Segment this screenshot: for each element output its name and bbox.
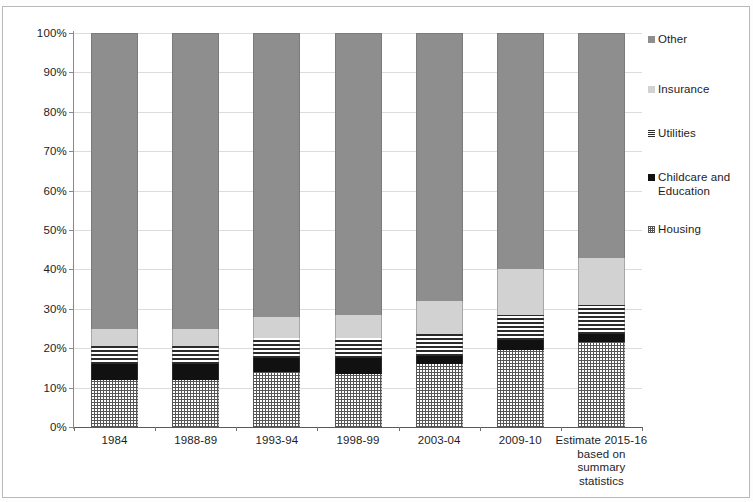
bar-segment-utilities[interactable] — [91, 346, 138, 364]
x-axis-tick-mark — [399, 427, 400, 431]
bar-segment-housing[interactable] — [497, 350, 544, 427]
y-axis-tick-mark — [69, 269, 74, 270]
legend-label: Utilities — [658, 127, 696, 141]
bar-segment-other[interactable] — [578, 33, 625, 258]
bar-segment-utilities[interactable] — [335, 338, 382, 358]
bar-segment-other[interactable] — [335, 33, 382, 315]
legend-item[interactable]: Childcare and Education — [648, 171, 750, 198]
bar-segment-insurance[interactable] — [497, 269, 544, 314]
bar-segment-childcare-and-education[interactable] — [335, 358, 382, 374]
stacked-bar[interactable] — [416, 33, 463, 427]
bar-segment-housing[interactable] — [91, 380, 138, 427]
bar-segment-childcare-and-education[interactable] — [578, 334, 625, 342]
y-axis-tick-label: 60% — [43, 185, 67, 197]
legend-swatch-icon — [648, 174, 655, 181]
bar-segment-insurance[interactable] — [335, 315, 382, 339]
y-axis-tick-label: 80% — [43, 106, 67, 118]
stacked-bar[interactable] — [578, 33, 625, 427]
y-axis-labels: 0%10%20%30%40%50%60%70%80%90%100% — [0, 33, 67, 427]
bar-segment-housing[interactable] — [416, 364, 463, 427]
bar-segment-utilities[interactable] — [253, 338, 300, 358]
bar-segment-childcare-and-education[interactable] — [416, 356, 463, 364]
y-axis-tick-label: 50% — [43, 224, 67, 236]
legend-item[interactable]: Housing — [648, 223, 750, 237]
bar-segment-utilities[interactable] — [172, 346, 219, 364]
bar-segment-housing[interactable] — [172, 380, 219, 427]
bar-segment-childcare-and-education[interactable] — [497, 340, 544, 350]
bar-segment-housing[interactable] — [578, 342, 625, 427]
y-axis-tick-label: 90% — [43, 66, 67, 78]
x-axis-tick-mark — [74, 427, 75, 431]
y-axis-tick-mark — [69, 191, 74, 192]
bar-segment-other[interactable] — [253, 33, 300, 317]
stacked-bar[interactable] — [172, 33, 219, 427]
x-axis-tick-mark — [561, 427, 562, 431]
legend-item[interactable]: Utilities — [648, 127, 750, 141]
bar-segment-other[interactable] — [172, 33, 219, 329]
x-axis-tick-mark — [642, 427, 643, 431]
y-axis-tick-label: 20% — [43, 342, 67, 354]
stacked-bar[interactable] — [335, 33, 382, 427]
bar-segment-insurance[interactable] — [91, 329, 138, 347]
y-axis-tick-mark — [69, 348, 74, 349]
x-axis-tick-label: Estimate 2015-16 based on summary statis… — [553, 434, 649, 488]
legend-item[interactable]: Other — [648, 33, 750, 47]
bar-segment-housing[interactable] — [253, 372, 300, 427]
chart-container: 0%10%20%30%40%50%60%70%80%90%100% 198419… — [0, 0, 753, 502]
y-axis-tick-label: 70% — [43, 145, 67, 157]
bar-segment-childcare-and-education[interactable] — [91, 364, 138, 380]
bar-segment-other[interactable] — [416, 33, 463, 301]
bar-segment-housing[interactable] — [335, 374, 382, 427]
y-axis-tick-label: 30% — [43, 303, 67, 315]
legend-label: Housing — [658, 223, 701, 237]
stacked-bar[interactable] — [253, 33, 300, 427]
bar-segment-childcare-and-education[interactable] — [253, 358, 300, 372]
x-axis-line — [73, 427, 643, 428]
y-axis-tick-label: 100% — [37, 27, 67, 39]
y-axis-tick-mark — [69, 230, 74, 231]
bar-segment-utilities[interactable] — [416, 334, 463, 356]
stacked-bar[interactable] — [497, 33, 544, 427]
bar-segment-insurance[interactable] — [578, 258, 625, 305]
y-axis-tick-mark — [69, 309, 74, 310]
y-axis-tick-mark — [69, 151, 74, 152]
y-axis-tick-mark — [69, 112, 74, 113]
stacked-bar[interactable] — [91, 33, 138, 427]
x-axis-tick-mark — [236, 427, 237, 431]
legend-label: Insurance — [658, 83, 709, 97]
y-axis-tick-label: 40% — [43, 263, 67, 275]
legend-swatch-icon — [648, 86, 655, 93]
legend-item[interactable]: Insurance — [648, 83, 750, 97]
bar-segment-insurance[interactable] — [416, 301, 463, 334]
y-axis-tick-mark — [69, 388, 74, 389]
bar-segment-utilities[interactable] — [497, 315, 544, 341]
legend-swatch-icon — [648, 36, 655, 43]
x-axis-tick-mark — [480, 427, 481, 431]
y-axis-tick-label: 10% — [43, 382, 67, 394]
x-axis-tick-mark — [317, 427, 318, 431]
bar-segment-other[interactable] — [91, 33, 138, 329]
y-axis-tick-mark — [69, 33, 74, 34]
bar-segment-childcare-and-education[interactable] — [172, 364, 219, 380]
bar-segment-utilities[interactable] — [578, 305, 625, 335]
x-axis-tick-mark — [155, 427, 156, 431]
legend-swatch-icon — [648, 226, 655, 233]
legend-label: Other — [658, 33, 687, 47]
legend-label: Childcare and Education — [658, 171, 750, 198]
bar-segment-other[interactable] — [497, 33, 544, 269]
plot-area — [74, 33, 642, 427]
bar-segment-insurance[interactable] — [172, 329, 219, 347]
y-axis-tick-mark — [69, 72, 74, 73]
y-axis-tick-label: 0% — [50, 421, 67, 433]
legend-swatch-icon — [648, 130, 655, 137]
bar-segment-insurance[interactable] — [253, 317, 300, 339]
